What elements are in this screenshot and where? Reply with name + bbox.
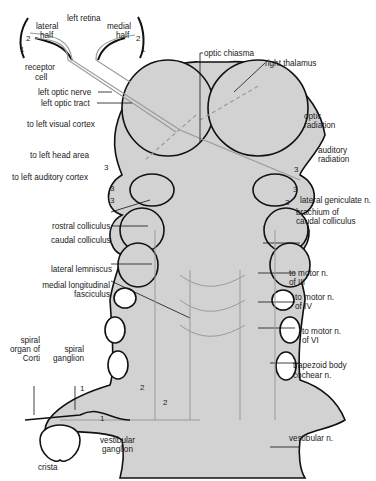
label-lateral-half-1: lateral — [36, 22, 58, 31]
neuron-number-1: 1 — [20, 45, 24, 54]
label-auditory-radiation-1: auditory — [318, 146, 347, 155]
label-medial-half-1: medial — [107, 22, 131, 31]
label-lateral-half-2: half — [40, 31, 53, 40]
label-to-left-head-area: to left head area — [30, 151, 89, 160]
label-motor-iii-2: of III — [289, 278, 305, 287]
label-motor-iv-2: of IV — [295, 302, 312, 311]
label-spiral-organ-3: Corti — [4, 354, 40, 363]
label-receptor-cell-2: cell — [35, 73, 47, 82]
label-spiral-ganglion-2: ganglion — [50, 354, 84, 363]
label-mlf-2: fasciculus — [30, 290, 110, 299]
label-left-optic-tract: left optic tract — [41, 99, 90, 108]
neuron-number-3: 3 — [294, 165, 298, 174]
neuron-number-2: 2 — [136, 34, 140, 43]
neuron-number-1: 1 — [100, 414, 104, 423]
neuron-number-3: 3 — [110, 196, 114, 205]
label-spiral-ganglion-1: spiral — [50, 345, 84, 354]
label-lateral-geniculate: lateral geniculate n. — [300, 196, 371, 205]
label-vestibular-ganglion-1: vestibular — [100, 436, 135, 445]
label-optic-radiation-1: optic — [304, 112, 321, 121]
label-mlf-1: medial longitudinal — [30, 281, 110, 290]
label-motor-vi-2: of VI — [302, 336, 319, 345]
label-brachium-2: caudal colliculus — [296, 217, 356, 226]
neuron-number-2: 2 — [163, 398, 167, 407]
neuron-number-3: 3 — [110, 184, 114, 193]
neuron-number-1: 1 — [141, 45, 145, 54]
neuron-number-3: 3 — [293, 185, 297, 194]
label-to-left-visual-cortex: to left visual cortex — [27, 120, 95, 129]
label-trapezoid-body: trapezoid body — [293, 361, 347, 370]
label-optic-chiasma: optic chiasma — [204, 49, 254, 58]
label-optic-radiation-2: radiation — [304, 121, 335, 130]
neuron-number-3: 3 — [104, 163, 108, 172]
neuron-number-2: 2 — [26, 34, 30, 43]
label-vestibular-ganglion-2: ganglion — [102, 445, 133, 454]
label-receptor-cell-1: receptor — [25, 63, 55, 72]
label-spiral-organ-1: spiral — [4, 336, 40, 345]
neuron-number-3: 3 — [285, 198, 289, 207]
neuron-number-1: 1 — [80, 384, 84, 393]
label-vestibular-n: vestibular n. — [289, 434, 333, 443]
label-caudal-colliculus: caudal colliculus — [51, 236, 111, 245]
label-to-left-auditory-cortex: to left auditory cortex — [12, 173, 88, 182]
label-motor-vi-1: to motor n. — [302, 327, 341, 336]
label-crista: crista — [38, 463, 58, 472]
label-spiral-organ-2: organ of — [4, 345, 40, 354]
label-left-retina: left retina — [67, 14, 101, 23]
label-cochlear-n: cochear n. — [293, 371, 331, 380]
neuron-number-2: 2 — [140, 383, 144, 392]
label-left-optic-nerve: left optic nerve — [38, 88, 91, 97]
label-lateral-lemniscus: lateral lemniscus — [51, 265, 112, 274]
label-brachium-1: brachium of — [296, 208, 339, 217]
label-motor-iv-1: to motor n. — [295, 293, 334, 302]
label-rostral-colliculus: rostral colliculus — [52, 222, 110, 231]
label-medial-half-2: half — [116, 31, 129, 40]
label-motor-iii-1: to motor n. — [289, 269, 328, 278]
label-right-thalamus: right thalamus — [265, 59, 316, 68]
label-auditory-radiation-2: radiation — [318, 155, 349, 164]
